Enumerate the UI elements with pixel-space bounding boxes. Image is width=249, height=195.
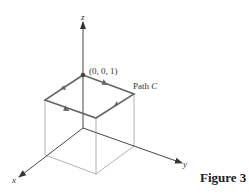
path-label: Path C — [133, 82, 157, 91]
cube-edges — [45, 94, 134, 174]
path-label-variable: C — [151, 81, 157, 91]
path-label-prefix: Path — [133, 81, 151, 91]
point-0-0-1 — [81, 73, 86, 78]
y-axis-label: y — [183, 160, 187, 169]
y-axis — [83, 128, 182, 163]
z-axis-label: z — [81, 13, 85, 22]
figure-canvas: z x y (0, 0, 1) Path C Figure 3 — [0, 0, 249, 195]
figure-caption: Figure 3 — [200, 171, 246, 184]
point-label: (0, 0, 1) — [89, 67, 118, 76]
x-axis — [19, 128, 83, 177]
axes — [19, 22, 182, 177]
path-c — [45, 75, 134, 118]
diagram-svg — [0, 0, 249, 195]
x-axis-label: x — [12, 176, 16, 185]
